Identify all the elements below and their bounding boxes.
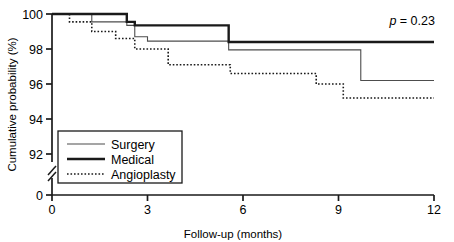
legend-label-medical: Medical: [111, 153, 154, 167]
x-tick-label-12: 12: [427, 203, 441, 217]
kaplan-meier-figure: 100989694920036912Follow-up (months)Cumu…: [0, 0, 454, 242]
y-tick-label-96: 96: [29, 78, 43, 92]
x-tick-label-3: 3: [144, 203, 151, 217]
annotation-layer: p = 0.23: [388, 14, 435, 28]
x-tick-label-0: 0: [49, 203, 56, 217]
x-tick-label-6: 6: [240, 203, 247, 217]
y-tick-label-98: 98: [29, 43, 43, 57]
y-tick-label-0: 0: [36, 189, 43, 203]
p-value-number: = 0.23: [396, 14, 435, 28]
chart-canvas: 100989694920036912Follow-up (months)Cumu…: [0, 0, 454, 242]
y-tick-label-100: 100: [22, 8, 43, 22]
p-value-symbol: p: [388, 14, 396, 28]
series-line-surgery: [52, 14, 434, 81]
legend-label-angioplasty: Angioplasty: [111, 168, 176, 182]
series-layer: [52, 14, 434, 98]
x-tick-label-9: 9: [335, 203, 342, 217]
y-tick-label-94: 94: [29, 113, 43, 127]
p-value-annotation: p = 0.23: [388, 14, 435, 28]
y-tick-label-92: 92: [29, 148, 43, 162]
y-axis-title: Cumulative probability (%): [6, 37, 18, 171]
series-line-angioplasty: [52, 14, 434, 98]
series-line-medical: [52, 14, 434, 42]
x-axis-title: Follow-up (months): [184, 228, 283, 240]
legend-label-surgery: Surgery: [111, 138, 156, 152]
legend-layer: SurgeryMedicalAngioplasty: [58, 131, 182, 183]
